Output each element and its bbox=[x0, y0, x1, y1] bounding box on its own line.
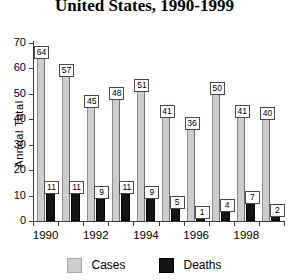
bar-deaths bbox=[71, 193, 80, 221]
x-axis-tick-label: 1996 bbox=[179, 229, 213, 241]
bar-deaths bbox=[96, 198, 105, 221]
x-axis-tick bbox=[234, 221, 235, 226]
bar-cases bbox=[87, 107, 95, 221]
data-label-deaths: 11 bbox=[69, 181, 84, 194]
chart-legend: Cases Deaths bbox=[0, 258, 289, 273]
y-axis-tick-label: 50 bbox=[0, 88, 26, 99]
bar-cases bbox=[37, 58, 45, 221]
bar-deaths bbox=[121, 193, 130, 221]
y-axis-tick-label: 40 bbox=[0, 113, 26, 124]
y-axis-tick-label: 20 bbox=[0, 164, 26, 175]
data-label-cases: 41 bbox=[160, 105, 175, 118]
x-axis-tick bbox=[83, 221, 84, 226]
data-label-cases: 45 bbox=[84, 95, 99, 108]
data-label-deaths: 11 bbox=[119, 181, 134, 194]
legend-swatch-deaths bbox=[159, 258, 174, 273]
bar-deaths bbox=[171, 208, 180, 221]
x-axis-tick-label: 1998 bbox=[229, 229, 263, 241]
y-axis-tick-label: 60 bbox=[0, 62, 26, 73]
y-axis-tick-label: 10 bbox=[0, 190, 26, 201]
bar-deaths bbox=[246, 203, 255, 221]
x-axis-tick bbox=[184, 221, 185, 226]
bar-cases bbox=[237, 117, 245, 221]
data-label-cases: 36 bbox=[185, 117, 200, 130]
legend-label-deaths: Deaths bbox=[183, 259, 221, 272]
legend-swatch-cases bbox=[67, 258, 82, 273]
bar-cases bbox=[62, 76, 70, 221]
bar-chart: United States, 1990-1999 Annual Total 01… bbox=[0, 0, 289, 280]
data-label-deaths: 2 bbox=[270, 204, 285, 217]
bar-deaths bbox=[146, 198, 155, 221]
data-label-deaths: 5 bbox=[170, 196, 185, 209]
data-label-cases: 57 bbox=[59, 64, 74, 77]
legend-item-cases: Cases bbox=[67, 258, 125, 273]
x-axis-tick bbox=[159, 221, 160, 226]
data-label-deaths: 1 bbox=[195, 206, 210, 219]
x-axis-tick bbox=[259, 221, 260, 226]
x-axis-tick bbox=[108, 221, 109, 226]
x-axis-tick bbox=[33, 221, 34, 226]
x-axis-tick-label: 1994 bbox=[129, 229, 163, 241]
x-axis-tick bbox=[284, 221, 285, 226]
x-axis-tick-label: 1990 bbox=[29, 229, 63, 241]
bar-cases bbox=[137, 91, 145, 221]
bar-deaths bbox=[221, 211, 230, 221]
data-label-cases: 64 bbox=[34, 46, 49, 59]
legend-item-deaths: Deaths bbox=[159, 258, 221, 273]
x-axis-tick bbox=[58, 221, 59, 226]
chart-title: United States, 1990-1999 bbox=[0, 0, 289, 16]
x-axis-tick bbox=[133, 221, 134, 226]
plot-area: 641157114594811519415361504417402 bbox=[33, 43, 284, 221]
data-label-cases: 51 bbox=[134, 79, 149, 92]
x-axis-tick-label: 1992 bbox=[79, 229, 113, 241]
y-axis-tick-label: 0 bbox=[0, 215, 26, 226]
y-axis-tick-label: 70 bbox=[0, 37, 26, 48]
data-label-cases: 48 bbox=[109, 87, 124, 100]
y-axis-tick-label: 30 bbox=[0, 139, 26, 150]
data-label-deaths: 11 bbox=[44, 181, 59, 194]
data-label-cases: 50 bbox=[210, 82, 225, 95]
data-label-deaths: 9 bbox=[144, 186, 159, 199]
data-label-deaths: 4 bbox=[220, 199, 235, 212]
data-label-deaths: 9 bbox=[94, 186, 109, 199]
data-label-cases: 41 bbox=[235, 105, 250, 118]
x-axis-tick bbox=[209, 221, 210, 226]
data-label-cases: 40 bbox=[260, 107, 275, 120]
bar-cases bbox=[112, 99, 120, 221]
data-label-deaths: 7 bbox=[245, 191, 260, 204]
legend-label-cases: Cases bbox=[91, 259, 125, 272]
bar-deaths bbox=[46, 193, 55, 221]
